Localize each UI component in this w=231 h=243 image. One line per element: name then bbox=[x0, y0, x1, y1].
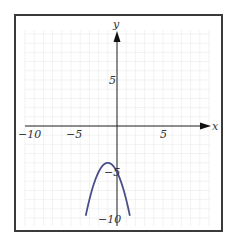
y-tick-neg5: −5 bbox=[104, 166, 120, 179]
x-axis-label: x bbox=[212, 120, 219, 133]
chart-plot: x y −10 −5 5 5 −5 −10 bbox=[0, 0, 231, 243]
y-axis-arrow-icon bbox=[114, 31, 121, 42]
y-axis-label: y bbox=[112, 18, 120, 31]
x-axis-arrow-icon bbox=[200, 123, 211, 130]
y-tick-neg10: −10 bbox=[98, 213, 121, 226]
x-tick-5: 5 bbox=[160, 128, 167, 141]
x-tick-neg10: −10 bbox=[18, 128, 41, 141]
y-tick-5: 5 bbox=[109, 74, 116, 87]
x-tick-neg5: −5 bbox=[66, 128, 82, 141]
